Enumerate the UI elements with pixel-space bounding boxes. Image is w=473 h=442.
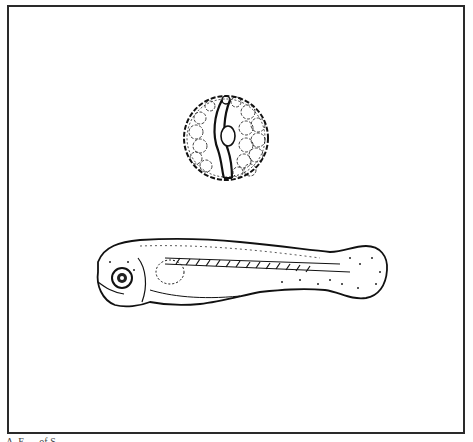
illustration-canvas [0, 0, 473, 442]
figure-caption: A. E..... of S...... [6, 437, 71, 442]
egg-illustration [184, 96, 268, 180]
larva-illustration [98, 239, 387, 307]
